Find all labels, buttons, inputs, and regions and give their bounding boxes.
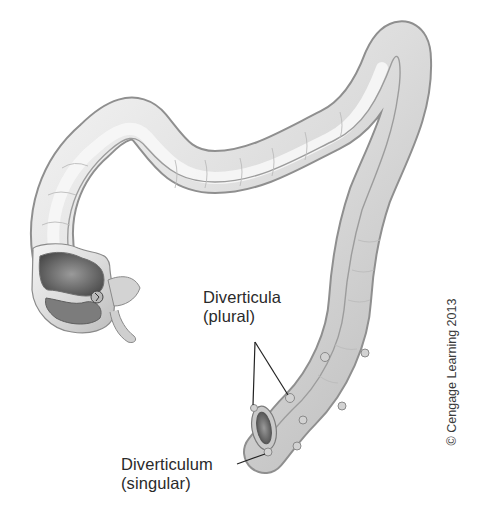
cecum-cutaway [32,244,140,343]
copyright-credit: © Cengage Learning 2013 [445,299,459,446]
diverticulum-note: (singular) [121,474,213,493]
colon-body [42,42,410,452]
diverticula-note: (plural) [203,307,281,326]
diverticula-term: Diverticula [203,288,281,307]
diverticula-label: Diverticula (plural) [203,288,281,326]
colon-illustration [0,0,482,523]
diverticula-pointer-left [253,342,255,405]
diverticula-pointer-right [255,342,288,395]
diverticulum-label: Diverticulum (singular) [121,455,213,493]
diverticulum-term: Diverticulum [121,455,213,474]
